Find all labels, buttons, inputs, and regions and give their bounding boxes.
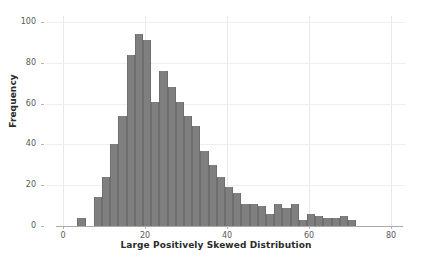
x-axis-tick-label: 40	[212, 232, 242, 240]
x-axis-title: Large Positively Skewed Distribution	[0, 240, 432, 250]
y-axis-tick-label: 80	[10, 59, 36, 67]
y-axis-tick-mark	[41, 226, 44, 227]
x-axis-tick-mark	[63, 226, 64, 229]
x-axis-tick-label: 60	[294, 232, 324, 240]
histogram-bar	[192, 126, 200, 226]
y-axis-tick-label: 100	[10, 18, 36, 26]
histogram-bar	[258, 206, 266, 226]
x-axis-tick-label: 0	[48, 232, 78, 240]
histogram-bar	[225, 187, 233, 226]
y-axis-tick-label: 20	[10, 181, 36, 189]
y-axis-tick-label: 60	[10, 100, 36, 108]
x-axis-tick-mark	[145, 226, 146, 229]
histogram-bar	[151, 102, 159, 226]
histogram-bar	[315, 216, 323, 226]
x-axis-tick-label: 20	[130, 232, 160, 240]
histogram-bar	[143, 40, 151, 226]
histogram-bar	[233, 193, 241, 226]
histogram-bar	[94, 197, 102, 226]
histogram-bar	[176, 102, 184, 226]
x-axis-tick-mark	[227, 226, 228, 229]
histogram-bar	[168, 87, 176, 226]
histogram-bar-group	[46, 16, 406, 226]
histogram-bar	[250, 204, 258, 226]
histogram-bar	[282, 208, 290, 226]
histogram-bar	[184, 116, 192, 226]
histogram-bar	[102, 177, 110, 226]
histogram-bar	[307, 214, 315, 226]
y-axis-tick-mark	[41, 104, 44, 105]
histogram-bar	[274, 204, 282, 226]
y-axis-tick-group: 020406080100	[10, 16, 36, 226]
histogram-bar	[266, 214, 274, 226]
histogram-bar	[323, 218, 331, 226]
histogram-bar	[217, 177, 225, 226]
x-axis-tick-mark	[309, 226, 310, 229]
x-axis-tick-label: 80	[376, 232, 406, 240]
histogram-bar	[209, 165, 217, 226]
histogram-figure: Frequency 020406080100 020406080 Large P…	[0, 0, 432, 264]
y-axis-tick-label: 0	[10, 222, 36, 230]
plot-area	[46, 16, 406, 226]
histogram-bar	[159, 71, 167, 226]
histogram-bar	[118, 116, 126, 226]
histogram-bar	[200, 151, 208, 226]
histogram-bar	[127, 55, 135, 226]
y-axis-tick-label: 40	[10, 140, 36, 148]
y-axis-tick-mark	[41, 22, 44, 23]
histogram-bar	[77, 218, 85, 226]
histogram-bar	[135, 34, 143, 226]
x-axis-tick-mark	[391, 226, 392, 229]
histogram-bar	[291, 204, 299, 226]
histogram-bar	[332, 218, 340, 226]
y-axis-tick-mark	[41, 185, 44, 186]
histogram-bar	[340, 216, 348, 226]
histogram-bar	[241, 204, 249, 226]
histogram-bar	[110, 144, 118, 226]
y-axis-tick-mark	[41, 63, 44, 64]
y-axis-tick-mark	[41, 144, 44, 145]
